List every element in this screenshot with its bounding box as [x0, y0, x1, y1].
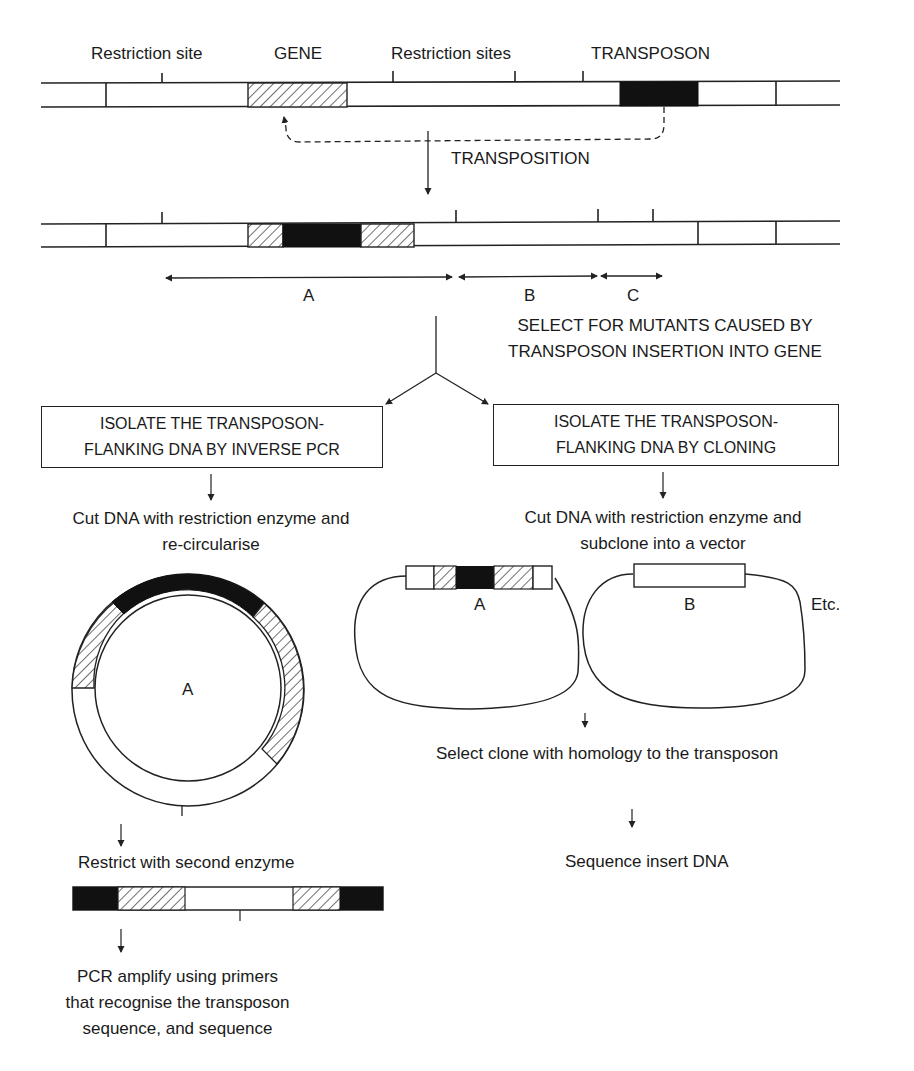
transposon-block — [620, 82, 698, 106]
circle-a-label: A — [182, 681, 193, 698]
cloning-box-line-1: ISOLATE THE TRANSPOSON- — [494, 409, 838, 435]
left-step-2: Restrict with second enzyme — [78, 854, 294, 871]
wildtype-chromosome — [41, 71, 840, 107]
inverse-pcr-box: ISOLATE THE TRANSPOSON- FLANKING DNA BY … — [41, 406, 383, 468]
vector-clone-b — [583, 564, 805, 708]
left-step-1-line-2: re-circularise — [20, 532, 402, 558]
left-step-1: Cut DNA with restriction enzyme and re-c… — [20, 506, 402, 558]
mutant-chromosome — [41, 209, 840, 247]
cloning-box: ISOLATE THE TRANSPOSON- FLANKING DNA BY … — [493, 404, 839, 466]
transposition-path — [284, 107, 664, 142]
right-step-1-line-1: Cut DNA with restriction enzyme and — [472, 505, 854, 531]
gene-right-half — [361, 224, 414, 247]
fragment-a-label: A — [303, 287, 314, 304]
left-step-3-line-1: PCR amplify using primers — [40, 964, 315, 990]
restricted-linear-fragment — [73, 887, 383, 921]
left-step-3: PCR amplify using primers that recognise… — [40, 964, 315, 1042]
left-step-1-line-1: Cut DNA with restriction enzyme and — [20, 506, 402, 532]
transposon-label: TRANSPOSON — [591, 45, 710, 62]
right-step-2: Select clone with homology to the transp… — [436, 745, 778, 762]
left-step-3-line-3: sequence, and sequence — [40, 1016, 315, 1042]
fragment-a-arrow — [166, 277, 452, 278]
restriction-sites-label: Restriction sites — [391, 45, 511, 62]
gene-left-half — [248, 224, 283, 247]
fragment-b-label: B — [524, 287, 535, 304]
gene-label: GENE — [274, 45, 322, 62]
cloning-box-line-2: FLANKING DNA BY CLONING — [494, 435, 838, 461]
etc-label: Etc. — [811, 596, 840, 613]
inverse-pcr-box-line-1: ISOLATE THE TRANSPOSON- — [42, 411, 382, 437]
transposition-label: TRANSPOSITION — [451, 150, 590, 167]
left-step-3-line-2: that recognise the transposon — [40, 990, 315, 1016]
right-step-1: Cut DNA with restriction enzyme and subc… — [472, 505, 854, 557]
selection-step-text: SELECT FOR MUTANTS CAUSED BY TRANSPOSON … — [470, 313, 860, 365]
fragment-b-arrow — [459, 276, 597, 277]
right-step-3: Sequence insert DNA — [565, 853, 728, 870]
vector-clone-a — [355, 566, 579, 709]
selection-line-2: TRANSPOSON INSERTION INTO GENE — [470, 339, 860, 365]
transposon-tagging-diagram: Restriction site GENE Restriction sites … — [0, 0, 914, 1071]
selection-line-1: SELECT FOR MUTANTS CAUSED BY — [470, 313, 860, 339]
gene-block — [248, 83, 347, 107]
inverse-pcr-box-line-2: FLANKING DNA BY INVERSE PCR — [42, 437, 382, 463]
fragment-c-label: C — [627, 287, 639, 304]
right-step-1-line-2: subclone into a vector — [472, 531, 854, 557]
inserted-transposon — [283, 224, 361, 247]
clone-a-label: A — [474, 596, 485, 613]
restriction-site-label: Restriction site — [91, 45, 202, 62]
clone-b-label: B — [684, 596, 695, 613]
